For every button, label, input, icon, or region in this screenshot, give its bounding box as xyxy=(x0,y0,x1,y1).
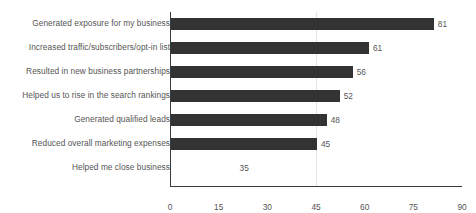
bar-value-label: 52 xyxy=(344,90,353,102)
x-tick-label: 60 xyxy=(353,202,377,212)
bar-value-label: 35 xyxy=(240,162,249,174)
bar-chart: Generated exposure for my business Incre… xyxy=(0,0,476,213)
x-tick-label: 30 xyxy=(255,202,279,212)
bar-value-label: 45 xyxy=(321,138,330,150)
bar xyxy=(171,138,317,150)
x-tick-label: 15 xyxy=(207,202,231,212)
x-axis-line xyxy=(170,186,462,187)
bar xyxy=(171,66,353,78)
bar xyxy=(171,114,327,126)
bar xyxy=(171,42,369,54)
bar xyxy=(171,90,340,102)
x-tick-label: 45 xyxy=(304,202,328,212)
bar-value-label: 81 xyxy=(438,18,447,30)
bar-value-label: 61 xyxy=(373,42,382,54)
x-tick-label: 0 xyxy=(158,202,182,212)
x-tick-label: 75 xyxy=(401,202,425,212)
category-label: Reduced overall marketing expenses xyxy=(4,138,170,148)
category-label: Helped me close business xyxy=(4,162,170,172)
bar-value-label: 56 xyxy=(357,66,366,78)
bar-value-label: 48 xyxy=(331,114,340,126)
category-label: Generated exposure for my business xyxy=(4,18,170,28)
category-label: Helped us to rise in the search rankings xyxy=(4,90,170,100)
category-label: Generated qualified leads xyxy=(4,114,170,124)
plot-area: 81 61 56 52 48 45 35 0 15 30 45 60 75 90 xyxy=(170,12,462,186)
category-label: Increased traffic/subscribers/opt-in lis… xyxy=(4,42,170,52)
bar xyxy=(171,18,434,30)
category-label: Resulted in new business partnerships xyxy=(4,66,170,76)
x-tick-label: 90 xyxy=(450,202,474,212)
